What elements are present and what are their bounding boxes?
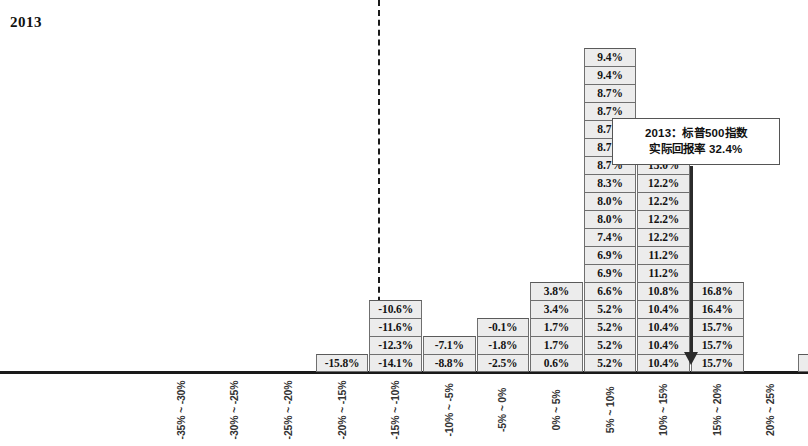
bar-cell: 12.2% bbox=[637, 228, 690, 246]
bar-cell: 6.9% bbox=[584, 264, 637, 282]
x-axis-tick-label: 5% ~ 10% bbox=[604, 374, 618, 446]
bar-cell: 12.2% bbox=[637, 210, 690, 228]
bar-cell: 8.7% bbox=[584, 84, 637, 102]
bar-column: -15.8% bbox=[316, 354, 369, 372]
x-axis-tick-labels: -35% ~ -30%-30% ~ -25%-25% ~ -20%-20% ~ … bbox=[0, 374, 808, 446]
bar-cell: 6.9% bbox=[584, 246, 637, 264]
bar-column: 26.2% bbox=[798, 354, 808, 372]
annotation-arrow-stem bbox=[690, 166, 693, 358]
bar-cell: 0.6% bbox=[530, 354, 583, 372]
bar-cell: 11.2% bbox=[637, 264, 690, 282]
bar-cell: 11.2% bbox=[637, 246, 690, 264]
bar-cell: 7.4% bbox=[584, 228, 637, 246]
x-axis-tick-label: 20% ~ 25% bbox=[764, 374, 778, 446]
bar-cell: 9.4% bbox=[584, 66, 637, 84]
bar-cell: -1.8% bbox=[477, 336, 530, 354]
bar-cell: -7.1% bbox=[423, 336, 476, 354]
bar-cell: 8.0% bbox=[584, 210, 637, 228]
bar-cell: 10.4% bbox=[637, 300, 690, 318]
bar-column: 10.4%10.4%10.4%10.4%10.8%11.2%11.2%12.2%… bbox=[637, 138, 690, 372]
bar-cell: 12.2% bbox=[637, 192, 690, 210]
bar-cell: 10.8% bbox=[637, 282, 690, 300]
bar-cell: 3.8% bbox=[530, 282, 583, 300]
plot-area: -15.8%-14.1%-12.3%-11.6%-10.6%-8.8%-7.1%… bbox=[0, 0, 808, 372]
bar-cell: 3.4% bbox=[530, 300, 583, 318]
x-axis-tick-label: 0% ~ 5% bbox=[550, 374, 564, 446]
x-axis-tick-label: -10% ~ -5% bbox=[443, 374, 457, 446]
bar-cell: 1.7% bbox=[530, 336, 583, 354]
bar-column: -8.8%-7.1% bbox=[423, 336, 476, 372]
x-axis-tick-label: 10% ~ 15% bbox=[657, 374, 671, 446]
bar-cell: 15.7% bbox=[691, 354, 744, 372]
bar-cell: 15.7% bbox=[691, 336, 744, 354]
x-axis-tick-label: -25% ~ -20% bbox=[282, 374, 296, 446]
bar-cell: 5.2% bbox=[584, 336, 637, 354]
x-axis-tick-label: -35% ~ -30% bbox=[175, 374, 189, 446]
bar-cell: 9.4% bbox=[584, 48, 637, 66]
bar-cell: -2.5% bbox=[477, 354, 530, 372]
bar-cell: 16.4% bbox=[691, 300, 744, 318]
bar-column: -14.1%-12.3%-11.6%-10.6% bbox=[369, 300, 422, 372]
bar-column: -2.5%-1.8%-0.1% bbox=[477, 318, 530, 372]
bar-cell: -8.8% bbox=[423, 354, 476, 372]
x-axis-tick-label: -5% ~ 0% bbox=[496, 374, 510, 446]
bar-cell: 16.8% bbox=[691, 282, 744, 300]
bar-cell: -14.1% bbox=[369, 354, 422, 372]
annotation-callout: 2013：标普500指数 实际回报率 32.4% bbox=[612, 118, 780, 165]
bar-cell: 5.2% bbox=[584, 300, 637, 318]
bar-cell: -12.3% bbox=[369, 336, 422, 354]
x-axis-tick-label: -20% ~ -15% bbox=[336, 374, 350, 446]
bar-cell: 12.2% bbox=[637, 174, 690, 192]
bar-cell: 6.6% bbox=[584, 282, 637, 300]
annotation-line-2: 实际回报率 32.4% bbox=[617, 141, 775, 157]
bar-cell: 8.3% bbox=[584, 174, 637, 192]
annotation-arrow-head-icon bbox=[684, 352, 698, 365]
bar-column: 15.7%15.7%15.7%16.4%16.8% bbox=[691, 282, 744, 372]
bar-cell: -10.6% bbox=[369, 300, 422, 318]
bar-cell: 15.7% bbox=[691, 318, 744, 336]
bar-cell: -0.1% bbox=[477, 318, 530, 336]
x-axis-tick-label: -30% ~ -25% bbox=[228, 374, 242, 446]
bar-cell: 10.4% bbox=[637, 336, 690, 354]
x-axis-tick-label: 15% ~ 20% bbox=[711, 374, 725, 446]
bar-cell: 8.0% bbox=[584, 192, 637, 210]
x-axis-tick-label: -15% ~ -10% bbox=[389, 374, 403, 446]
bar-cell: 10.4% bbox=[637, 354, 690, 372]
bar-cell: 5.2% bbox=[584, 318, 637, 336]
bar-column: 5.2%5.2%5.2%5.2%6.6%6.9%6.9%7.4%8.0%8.0%… bbox=[584, 48, 637, 372]
bar-cell: 26.2% bbox=[798, 354, 808, 372]
annotation-line-1: 2013：标普500指数 bbox=[617, 125, 775, 141]
bar-cell: 1.7% bbox=[530, 318, 583, 336]
bar-column: 0.6%1.7%1.7%3.4%3.8% bbox=[530, 282, 583, 372]
bar-cell: -15.8% bbox=[316, 354, 369, 372]
chart-root: 2013 -15.8%-14.1%-12.3%-11.6%-10.6%-8.8%… bbox=[0, 0, 808, 446]
bar-cell: -11.6% bbox=[369, 318, 422, 336]
bar-cell: 10.4% bbox=[637, 318, 690, 336]
bar-cell: 5.2% bbox=[584, 354, 637, 372]
